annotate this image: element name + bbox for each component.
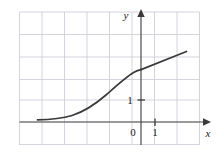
grid-lines — [20, 12, 200, 145]
y-tick-one-label: 1 — [127, 94, 133, 106]
x-axis-arrow-icon — [203, 118, 211, 126]
graph-figure: y x 0 1 1 — [0, 0, 224, 162]
origin-label: 0 — [130, 126, 136, 138]
x-tick-one-label: 1 — [152, 126, 158, 138]
coordinate-plane-svg: y x 0 1 1 — [0, 0, 224, 162]
function-graph — [38, 52, 187, 120]
axes — [20, 9, 212, 145]
y-axis-label: y — [123, 9, 129, 21]
x-axis-label: x — [205, 127, 211, 139]
y-axis-arrow-icon — [137, 9, 144, 17]
line-segment — [141, 52, 187, 70]
curve-segment — [38, 70, 142, 120]
